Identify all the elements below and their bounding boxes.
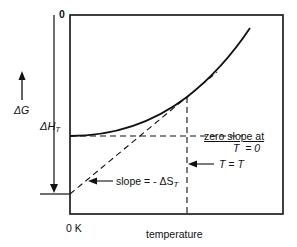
temperature-marker-label: T = T: [219, 159, 244, 170]
delta-h-label: ΔHT: [40, 121, 60, 134]
temperature-pointer-head: [188, 161, 197, 168]
slope-label-main: slope = - ΔS: [116, 175, 174, 187]
zero-slope-label-line1: zero slope at: [204, 131, 264, 142]
delta-g-label: ΔG: [14, 105, 29, 116]
slope-label: slope = - ΔST: [116, 176, 178, 189]
delta-h-label-main: ΔH: [40, 120, 55, 132]
delta-h-bracket-arrowhead: [50, 184, 58, 193]
x-axis-origin-label: 0 K: [66, 223, 82, 234]
zero-slope-label-line2: T = 0: [233, 143, 260, 154]
x-axis-label: temperature: [146, 229, 203, 240]
y-axis-zero-label: 0: [59, 9, 65, 20]
delta-h-label-sub: T: [55, 125, 60, 134]
slope-label-sub: T: [174, 180, 179, 189]
delta-g-arrow-head: [19, 71, 26, 80]
delta-g-curve: [70, 28, 250, 136]
